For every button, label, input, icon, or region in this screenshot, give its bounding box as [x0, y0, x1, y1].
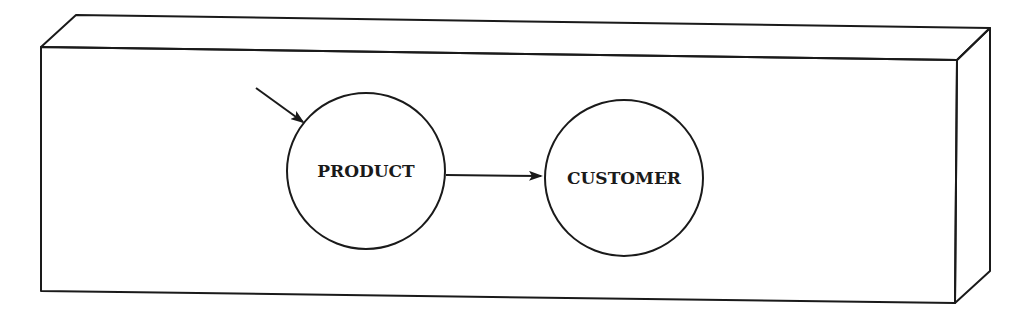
node-product: PRODUCT — [287, 93, 445, 249]
box-side-face — [955, 28, 990, 303]
product-to-customer-arrow — [446, 175, 541, 176]
entry-arrow — [256, 88, 303, 122]
customer-label: CUSTOMER — [567, 168, 682, 188]
diagram-canvas: PRODUCT CUSTOMER — [0, 0, 1030, 315]
node-customer: CUSTOMER — [545, 100, 703, 256]
box-container — [41, 15, 990, 303]
product-label: PRODUCT — [317, 161, 415, 181]
